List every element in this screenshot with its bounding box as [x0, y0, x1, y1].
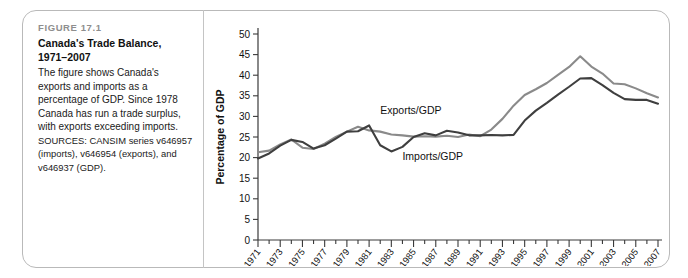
- chart-area: 05101520253035404550 1971197319751977197…: [210, 12, 670, 266]
- x-tick-label: 1981: [353, 247, 374, 266]
- series-label-imports-gdp: Imports/GDP: [402, 150, 463, 162]
- y-tick-label: 45: [239, 49, 251, 60]
- data-series-group: [258, 56, 658, 158]
- x-tick-label: 1987: [420, 247, 441, 266]
- x-tick-label: 1977: [309, 247, 330, 266]
- x-tick-label: 1991: [464, 247, 485, 266]
- y-axis: 05101520253035404550: [239, 28, 258, 246]
- x-tick-label: 1999: [553, 247, 574, 266]
- figure-title-line1: Canada's Trade Balance,: [38, 37, 193, 51]
- x-tick-label: 1997: [531, 247, 552, 266]
- y-tick-label: 40: [239, 70, 251, 81]
- y-tick-label: 35: [239, 90, 251, 101]
- y-tick-label: 5: [244, 214, 250, 225]
- trade-balance-line-chart: 05101520253035404550 1971197319751977197…: [210, 12, 670, 266]
- figure-caption: FIGURE 17.1 Canada's Trade Balance, 1971…: [38, 22, 193, 174]
- figure-sources: SOURCES: CANSIM series v646957 (imports)…: [38, 134, 193, 174]
- series-line-imports-gdp: [258, 78, 658, 158]
- y-tick-label: 30: [239, 111, 251, 122]
- figure-container: FIGURE 17.1 Canada's Trade Balance, 1971…: [0, 0, 688, 278]
- x-tick-label: 1983: [375, 247, 396, 266]
- y-axis-title: Percentage of GDP: [214, 89, 226, 184]
- series-line-exports-gdp: [258, 56, 658, 152]
- x-tick-label: 1989: [442, 247, 463, 266]
- x-tick-label: 1985: [398, 247, 419, 266]
- x-tick-label: 2001: [575, 247, 596, 266]
- x-tick-label: 2007: [642, 247, 663, 266]
- x-axis: 1971197319751977197919811983198519871989…: [242, 240, 663, 266]
- column-divider: [203, 10, 204, 268]
- figure-number: FIGURE 17.1: [38, 22, 193, 33]
- series-label-exports-gdp: Exports/GDP: [380, 104, 441, 116]
- figure-title: Canada's Trade Balance, 1971–2007: [38, 37, 193, 64]
- series-annotations: Exports/GDPImports/GDP: [380, 104, 463, 161]
- x-tick-label: 1971: [242, 247, 263, 266]
- x-tick-label: 1993: [486, 247, 507, 266]
- figure-description: The figure shows Canada's exports and im…: [38, 66, 193, 134]
- y-tick-label: 0: [244, 235, 250, 246]
- x-tick-label: 1995: [509, 247, 530, 266]
- y-tick-label: 10: [239, 193, 251, 204]
- y-tick-label: 25: [239, 132, 251, 143]
- figure-title-line2: 1971–2007: [38, 51, 193, 65]
- x-tick-label: 2003: [598, 247, 619, 266]
- x-tick-label: 1979: [331, 247, 352, 266]
- x-tick-label: 1975: [286, 247, 307, 266]
- y-tick-label: 20: [239, 152, 251, 163]
- x-tick-label: 1973: [264, 247, 285, 266]
- y-tick-label: 50: [239, 29, 251, 40]
- x-tick-label: 2005: [620, 247, 641, 266]
- y-tick-label: 15: [239, 173, 251, 184]
